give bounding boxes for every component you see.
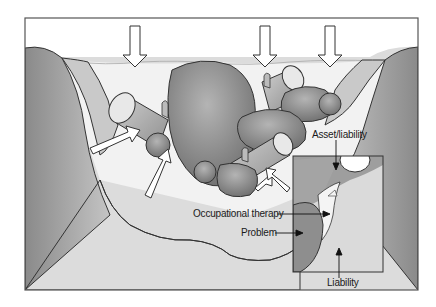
- kawa-river-diagram: Asset/liability Occupational therapy Pro…: [0, 0, 436, 307]
- label-asset-liability: Asset/liability: [312, 129, 367, 140]
- label-occupational-therapy: Occupational therapy: [193, 208, 284, 219]
- label-problem: Problem: [241, 227, 277, 238]
- label-liability: Liability: [327, 277, 359, 288]
- diagram-illustration: [0, 0, 436, 307]
